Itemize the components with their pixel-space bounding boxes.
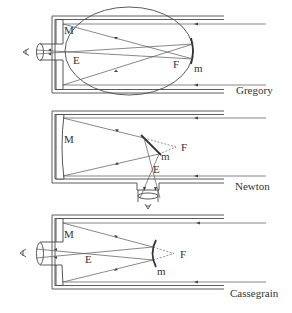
label-eyepiece: E (153, 163, 160, 175)
gregory-primary-mirror-bottom (56, 60, 63, 90)
cassegrain-primary-mirror-bottom (56, 265, 63, 286)
telescope-name: Newton (235, 180, 270, 192)
newton-primary-mirror (56, 115, 64, 180)
return-ray (36, 247, 153, 258)
reflected-ray (63, 154, 159, 176)
eye-icon (145, 204, 151, 209)
telescope-name: Gregory (236, 84, 273, 96)
reflected-ray (63, 260, 153, 282)
gregory-telescope: M E F m Gregory (23, 7, 273, 96)
gregory-primary-mirror-top (56, 20, 63, 45)
reflected-ray (63, 118, 144, 138)
cassegrain-eyepiece-lens (37, 243, 44, 265)
virtual-ray (153, 254, 174, 261)
label-secondary-mirror: m (161, 150, 170, 162)
newton-tube-inner (55, 115, 224, 180)
gregory-secondary-mirror (191, 38, 193, 64)
newton-telescope: M F m E Newton (52, 111, 270, 209)
reflected-ray (63, 223, 153, 247)
virtual-ray (153, 247, 174, 254)
cassegrain-secondary-mirror (153, 240, 157, 267)
label-primary-mirror: M (64, 133, 74, 145)
cassegrain-primary-mirror-top (56, 219, 63, 243)
label-eyepiece: E (85, 253, 92, 265)
label-focus: F (173, 58, 179, 70)
telescope-diagrams: M E F m Gregory M (0, 0, 292, 313)
gregory-eyepiece-lens (37, 44, 44, 61)
label-primary-mirror: M (64, 228, 74, 240)
eye-icon (20, 249, 26, 257)
label-focus: F (181, 141, 187, 153)
label-primary-mirror: M (64, 24, 74, 36)
gregory-tube-inner (55, 20, 224, 90)
reflected-ray (63, 24, 193, 59)
cassegrain-telescope: M E F m Cassegrain (20, 215, 279, 299)
label-focus: F (180, 248, 186, 260)
label-eyepiece: E (73, 54, 80, 66)
telescope-name: Cassegrain (230, 287, 279, 299)
cassegrain-tube (52, 215, 224, 289)
eye-icon (23, 49, 29, 56)
newton-tube (52, 111, 224, 190)
label-secondary-mirror: m (157, 265, 166, 277)
return-ray (36, 249, 153, 260)
cassegrain-tube-inner (55, 219, 224, 286)
label-secondary-mirror: m (194, 62, 203, 74)
